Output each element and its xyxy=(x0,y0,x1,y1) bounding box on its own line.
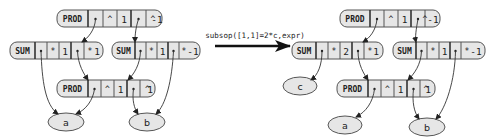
svg-text:PROD: PROD xyxy=(343,85,362,94)
svg-text:*: * xyxy=(88,47,93,56)
svg-text:-1: -1 xyxy=(187,46,199,57)
svg-text:1: 1 xyxy=(118,84,124,95)
svg-text:^: ^ xyxy=(108,15,113,24)
svg-text:SUM: SUM xyxy=(116,47,131,56)
svg-text:-1: -1 xyxy=(151,14,163,25)
sum-node-right-after: SUM * 1 * -1 xyxy=(393,42,485,59)
leaf-a-before: a xyxy=(48,113,84,131)
svg-text:1: 1 xyxy=(121,14,127,25)
before-expression: PROD ^ 1 ^ -1 SUM * 1 * 1 xyxy=(10,10,200,131)
svg-text:a: a xyxy=(63,117,69,128)
svg-text:SUM: SUM xyxy=(397,47,412,56)
svg-text:1: 1 xyxy=(402,14,408,25)
svg-text:b: b xyxy=(144,117,150,128)
svg-text:1: 1 xyxy=(160,46,166,57)
svg-text:1: 1 xyxy=(398,84,404,95)
svg-text:2: 2 xyxy=(343,46,349,57)
leaf-b-before: b xyxy=(129,113,165,131)
transform-arrow: subsop([1,1]=2*c,expr) xyxy=(205,31,304,46)
svg-text:*: * xyxy=(182,47,187,56)
transform-label: subsop([1,1]=2*c,expr) xyxy=(205,31,304,40)
svg-text:c: c xyxy=(297,81,302,92)
prod-node-bottom-before: PROD ^ 1 ^ 1 xyxy=(57,80,155,97)
svg-text:b: b xyxy=(424,122,430,133)
svg-text:*: * xyxy=(465,47,470,56)
svg-text:1: 1 xyxy=(373,46,379,57)
svg-text:1: 1 xyxy=(62,46,68,57)
svg-text:*: * xyxy=(51,47,56,56)
svg-text:1: 1 xyxy=(442,46,448,57)
svg-text:-1: -1 xyxy=(427,14,439,25)
sum-node-left-after: SUM * 2 * 1 xyxy=(292,42,383,59)
sum-node-right-before: SUM * 1 * -1 xyxy=(112,42,200,59)
sum-node-left-before: SUM * 1 * 1 xyxy=(10,42,103,59)
svg-text:-1: -1 xyxy=(470,46,482,57)
svg-text:^: ^ xyxy=(105,85,110,94)
svg-text:^: ^ xyxy=(385,85,390,94)
leaf-a-after: a xyxy=(328,116,362,134)
after-expression: PROD ^ 1 ^ -1 SUM * 2 * 1 xyxy=(283,10,485,136)
svg-text:PROD: PROD xyxy=(63,85,82,94)
svg-text:1: 1 xyxy=(147,84,153,95)
svg-text:a: a xyxy=(342,120,348,131)
svg-text:*: * xyxy=(431,47,436,56)
edges-before xyxy=(41,19,174,114)
prod-node-top-before: PROD ^ 1 ^ -1 xyxy=(57,10,163,27)
svg-text:^: ^ xyxy=(389,15,394,24)
svg-text:1: 1 xyxy=(94,46,100,57)
svg-text:PROD: PROD xyxy=(345,15,364,24)
leaf-b-after: b xyxy=(409,118,445,136)
svg-text:*: * xyxy=(332,47,337,56)
edges-after xyxy=(311,19,456,119)
dag-diagram: PROD ^ 1 ^ -1 SUM * 1 * 1 xyxy=(0,0,498,139)
svg-text:SUM: SUM xyxy=(15,47,30,56)
prod-node-bottom-after: PROD ^ 1 ^ 1 xyxy=(337,80,435,97)
svg-text:*: * xyxy=(368,47,373,56)
prod-node-top-after: PROD ^ 1 ^ -1 xyxy=(340,10,440,27)
svg-text:SUM: SUM xyxy=(297,47,312,56)
node-head-label: PROD xyxy=(63,15,82,24)
svg-text:1: 1 xyxy=(425,84,431,95)
svg-text:*: * xyxy=(149,47,154,56)
